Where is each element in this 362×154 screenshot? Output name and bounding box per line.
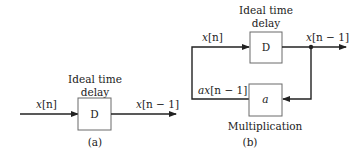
panel-b-title-line1: Ideal time [239,4,293,16]
panel-b: Ideal time delay x[n] D x[n − 1] a ax[n … [192,4,349,148]
panel-a-caption: (a) [88,136,102,148]
panel-b-caption: (b) [243,136,258,148]
panel-b-delay-block-label: D [262,41,270,53]
panel-b-feedback-label: ax[n − 1] [198,84,247,96]
panel-a-input-label: x[n] [36,98,57,110]
panel-b-input-label: x[n] [202,31,223,43]
panel-a-title-line1: Ideal time [68,73,122,85]
panel-a: Ideal time delay x[n] D x[n − 1] (a) [20,73,179,148]
panel-a-title-line2: delay [81,86,110,98]
panel-b-output-label: x[n − 1] [306,31,349,43]
diagram-canvas: Ideal time delay x[n] D x[n − 1] (a) Ide… [0,0,362,154]
panel-a-output-label: x[n − 1] [136,98,179,110]
panel-b-feedback-arrow [283,47,311,99]
panel-b-multiplier-block-label: a [262,93,268,105]
panel-a-delay-block-label: D [90,108,98,120]
panel-b-multiplier-caption: Multiplication [228,120,303,132]
panel-b-title-line2: delay [252,17,281,29]
